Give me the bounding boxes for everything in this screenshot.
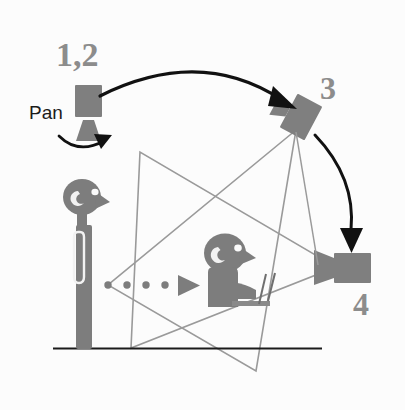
label-position-4: 4 bbox=[353, 288, 369, 320]
camera-body bbox=[75, 85, 102, 117]
gaze-arrowhead bbox=[178, 275, 200, 296]
label-position-1-2: 1,2 bbox=[56, 38, 99, 72]
gaze-dot bbox=[123, 281, 130, 288]
standing-presenter bbox=[63, 179, 110, 349]
gaze-dot bbox=[104, 281, 111, 288]
move-arc-arrowhead bbox=[340, 228, 363, 253]
diagram-canvas: 1,2 3 4 Pan bbox=[0, 0, 405, 410]
move-arc-3-to-4 bbox=[315, 135, 363, 253]
gaze-dot bbox=[161, 281, 168, 288]
camera-body bbox=[334, 253, 371, 283]
label-pan: Pan bbox=[29, 103, 63, 122]
move-arc-1-2-to-3 bbox=[100, 72, 297, 109]
camera-position-4 bbox=[314, 250, 371, 285]
pan-arc-arrowhead bbox=[94, 134, 112, 149]
label-position-3: 3 bbox=[320, 72, 336, 104]
gaze-direction-arrow bbox=[104, 275, 200, 296]
gaze-dot bbox=[142, 281, 149, 288]
camera-position-1-2 bbox=[75, 85, 102, 141]
move-arc-path bbox=[315, 135, 352, 230]
move-arc-arrowhead bbox=[268, 86, 297, 109]
move-arc-path bbox=[100, 72, 282, 100]
